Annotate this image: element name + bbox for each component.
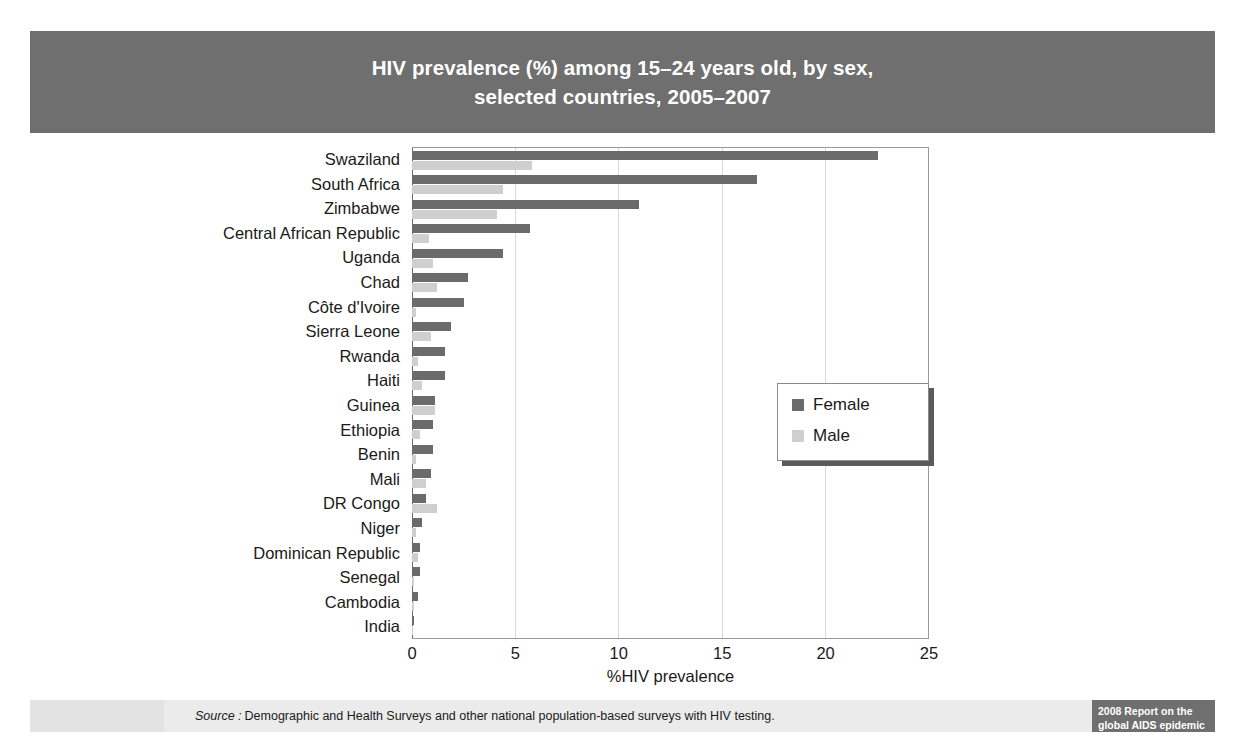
y-axis-label: Sierra Leone <box>120 319 408 344</box>
bar-female <box>412 396 435 405</box>
bar-male <box>412 553 418 562</box>
bar-male <box>412 602 414 611</box>
y-axis-label: Ethiopia <box>120 418 408 443</box>
bar-male <box>412 357 418 366</box>
bar-male <box>412 406 435 415</box>
page-title: HIV prevalence (%) among 15–24 years old… <box>372 53 874 111</box>
y-axis-label: Côte d'Ivoire <box>120 295 408 320</box>
chart-title-band: HIV prevalence (%) among 15–24 years old… <box>30 31 1215 133</box>
bar-group <box>412 295 928 320</box>
bar-male <box>412 308 416 317</box>
bar-group <box>412 148 928 173</box>
bar-female <box>412 224 530 233</box>
bar-male <box>412 161 532 170</box>
bar-group <box>412 491 928 516</box>
title-line-2: selected countries, 2005–2007 <box>372 82 874 111</box>
bar-group <box>412 271 928 296</box>
bar-female <box>412 298 464 307</box>
y-axis-label: Dominican Republic <box>120 541 408 566</box>
bar-group <box>412 246 928 271</box>
y-axis-label: Senegal <box>120 565 408 590</box>
bar-female <box>412 567 420 576</box>
y-axis-label: Central African Republic <box>120 221 408 246</box>
bar-female <box>412 151 878 160</box>
x-axis-tick: 20 <box>816 644 834 663</box>
y-axis-label: Mali <box>120 467 408 492</box>
y-axis-category-labels: SwazilandSouth AfricaZimbabweCentral Afr… <box>120 147 408 639</box>
bar-group <box>412 516 928 541</box>
title-line-1: HIV prevalence (%) among 15–24 years old… <box>372 53 874 82</box>
y-axis-label: South Africa <box>120 172 408 197</box>
bar-male <box>412 283 437 292</box>
bar-group <box>412 222 928 247</box>
bar-group <box>412 344 928 369</box>
bar-female <box>412 518 422 527</box>
bar-group <box>412 540 928 565</box>
source-text: Demographic and Health Surveys and other… <box>245 709 775 723</box>
bar-group <box>412 320 928 345</box>
bar-male <box>412 430 420 439</box>
y-axis-label: Niger <box>120 516 408 541</box>
bar-female <box>412 616 414 625</box>
x-axis-tick: 0 <box>407 644 416 663</box>
legend-item-male: Male <box>792 426 928 446</box>
legend-swatch-female-icon <box>792 399 804 411</box>
bar-male <box>412 381 422 390</box>
footer-left-block <box>30 700 164 732</box>
legend-item-female: Female <box>792 395 928 415</box>
bar-male <box>412 455 416 464</box>
x-axis-tick: 5 <box>511 644 520 663</box>
bar-male <box>412 577 414 586</box>
bar-group <box>412 589 928 614</box>
bar-male <box>412 259 433 268</box>
chart-legend: FemaleMale <box>777 383 929 461</box>
bar-male <box>412 626 413 635</box>
bar-female <box>412 543 420 552</box>
y-axis-label: Rwanda <box>120 344 408 369</box>
legend-swatch-male-icon <box>792 430 804 442</box>
y-axis-label: Swaziland <box>120 147 408 172</box>
bar-female <box>412 592 418 601</box>
bar-female <box>412 273 468 282</box>
badge-line-1: 2008 Report on the <box>1098 704 1215 718</box>
bar-female <box>412 445 433 454</box>
x-axis-tick-labels: 0510152025 <box>412 644 929 666</box>
y-axis-label: Benin <box>120 442 408 467</box>
bar-group <box>412 173 928 198</box>
bar-female <box>412 249 503 258</box>
legend-label: Male <box>813 426 850 446</box>
bar-female <box>412 322 451 331</box>
bar-male <box>412 332 431 341</box>
bar-female <box>412 420 433 429</box>
bar-male <box>412 234 429 243</box>
x-axis-tick: 25 <box>920 644 938 663</box>
bar-male <box>412 504 437 513</box>
y-axis-label: India <box>120 614 408 639</box>
legend-label: Female <box>813 395 870 415</box>
y-axis-label: Haiti <box>120 368 408 393</box>
source-label: Source : <box>195 709 242 723</box>
badge-line-2: global AIDS epidemic <box>1098 718 1215 732</box>
bar-female <box>412 200 639 209</box>
bar-female <box>412 371 445 380</box>
bar-male <box>412 210 497 219</box>
bar-male <box>412 479 426 488</box>
x-axis-tick: 15 <box>713 644 731 663</box>
bar-male <box>412 185 503 194</box>
y-axis-label: Cambodia <box>120 590 408 615</box>
bar-female <box>412 175 757 184</box>
footer-source-note: Source : Demographic and Health Surveys … <box>195 700 775 732</box>
bar-female <box>412 494 426 503</box>
y-axis-label: DR Congo <box>120 491 408 516</box>
y-axis-label: Uganda <box>120 245 408 270</box>
y-axis-label: Guinea <box>120 393 408 418</box>
bar-female <box>412 347 445 356</box>
x-axis-title: %HIV prevalence <box>412 667 929 686</box>
bar-group <box>412 565 928 590</box>
chart-container: SwazilandSouth AfricaZimbabweCentral Afr… <box>0 140 1000 690</box>
y-axis-label: Chad <box>120 270 408 295</box>
footer-band: Source : Demographic and Health Surveys … <box>30 700 1215 732</box>
bar-group <box>412 197 928 222</box>
report-badge: 2008 Report on the global AIDS epidemic <box>1092 700 1215 732</box>
bar-male <box>412 528 416 537</box>
